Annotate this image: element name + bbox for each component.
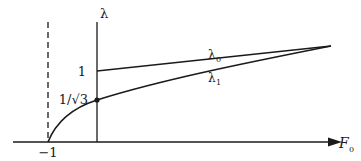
- lambda0-label: λ: [208, 48, 216, 62]
- lambda1-label: λ: [208, 71, 216, 85]
- lambda1-subscript: 1: [216, 78, 221, 87]
- y-axis-label: λ: [100, 6, 108, 21]
- tick-label-one: 1: [78, 64, 86, 79]
- eigenvalue-diagram: λ 1 1/√3 −1 λ 0 λ 1 F 0: [0, 0, 361, 161]
- lambda0-subscript: 0: [216, 55, 221, 64]
- tick-label-minus-one: −1: [38, 145, 57, 160]
- intersection-point: [94, 97, 99, 102]
- x-axis-label-subscript: 0: [349, 145, 354, 154]
- tick-label-inv-sqrt3: 1/√3: [59, 92, 88, 107]
